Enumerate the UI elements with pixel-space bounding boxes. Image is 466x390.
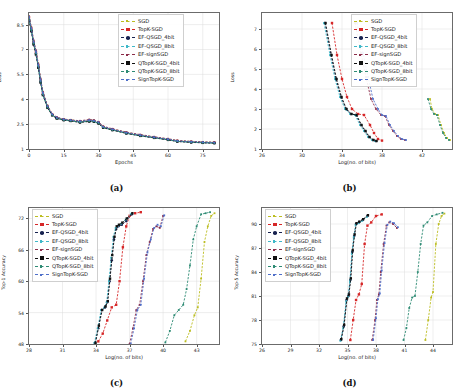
series-marker xyxy=(377,108,379,110)
panel-b: 26303438421234567 Loss Log(no. of bits) … xyxy=(233,0,466,195)
legend-item-signtopk-sgd[interactable]: SignTopK-SGD xyxy=(268,271,327,279)
series-marker xyxy=(111,254,113,256)
legend-item-qtopk-sgd-4bit[interactable]: QTopK-SGD_4bit xyxy=(121,59,180,67)
legend-item-sgd[interactable]: SGD xyxy=(268,212,327,220)
legend-swatch-icon xyxy=(354,26,368,33)
y-tick-label: 72 xyxy=(4,216,24,221)
legend-item-ef-qsgd-4bit[interactable]: EF-QSGD_4bit xyxy=(268,229,327,237)
legend-swatch-icon xyxy=(35,255,49,262)
legend-label: EF-signSGD xyxy=(285,247,315,252)
legend-label: QTopK-SGD_4bit xyxy=(285,256,327,261)
y-tickmark xyxy=(259,129,261,130)
series-marker xyxy=(432,291,434,293)
y-tickmark xyxy=(259,272,261,273)
legend-item-ef-signsgd[interactable]: EF-signSGD xyxy=(354,51,413,59)
legend-item-ef-qsgd-4bit[interactable]: EF-QSGD_4bit xyxy=(35,229,94,237)
x-tick-label: 41 xyxy=(402,348,408,353)
x-tick-label: 75 xyxy=(200,153,206,158)
series-line xyxy=(165,212,210,342)
legend-item-ef-signsgd[interactable]: EF-signSGD xyxy=(121,51,180,59)
legend-item-ef-qsgd-8bit[interactable]: EF-QSGD_8bit xyxy=(268,237,327,245)
series-marker xyxy=(379,293,381,295)
y-tickmark xyxy=(259,29,261,30)
series-marker xyxy=(375,108,377,110)
legend-item-qtopk-sgd-8bit[interactable]: QTopK-SGD_8bit xyxy=(268,262,327,270)
legend-item-topk-sgd[interactable]: TopK-SGD xyxy=(354,25,413,33)
legend-item-qtopk-sgd-4bit[interactable]: QTopK-SGD_4bit xyxy=(354,59,413,67)
series-marker xyxy=(425,339,427,341)
legend-item-ef-qsgd-8bit[interactable]: EF-QSGD_8bit xyxy=(121,42,180,50)
legend-item-qtopk-sgd-8bit[interactable]: QTopK-SGD_8bit xyxy=(35,262,94,270)
series-marker xyxy=(189,265,191,267)
legend-item-sgd[interactable]: SGD xyxy=(35,212,94,220)
legend-item-sgd[interactable]: SGD xyxy=(121,17,180,25)
legend-item-ef-qsgd-4bit[interactable]: EF-QSGD_4bit xyxy=(121,34,180,42)
series-marker xyxy=(401,138,403,140)
series-marker xyxy=(202,141,204,143)
legend-swatch-icon xyxy=(121,26,135,33)
y-tickmark xyxy=(26,25,28,26)
legend-item-ef-signsgd[interactable]: EF-signSGD xyxy=(35,246,94,254)
series-marker xyxy=(426,222,428,224)
legend-item-qtopk-sgd-8bit[interactable]: QTopK-SGD_8bit xyxy=(354,67,413,75)
series-marker xyxy=(405,139,407,141)
legend-swatch-icon xyxy=(121,60,135,67)
legend-item-ef-signsgd[interactable]: EF-signSGD xyxy=(268,246,327,254)
series-marker xyxy=(147,252,149,254)
series-marker xyxy=(140,211,142,213)
series-marker xyxy=(133,327,135,329)
series-marker xyxy=(335,78,337,80)
legend-item-signtopk-sgd[interactable]: SignTopK-SGD xyxy=(35,271,94,279)
legend-item-topk-sgd[interactable]: TopK-SGD xyxy=(268,220,327,228)
y-tickmark xyxy=(26,74,28,75)
series-marker xyxy=(340,96,342,98)
legend-item-ef-qsgd-8bit[interactable]: EF-QSGD_8bit xyxy=(354,42,413,50)
series-marker xyxy=(106,319,108,321)
y-tickmark xyxy=(259,149,261,150)
y-tickmark xyxy=(26,149,28,150)
legend-item-ef-qsgd-8bit[interactable]: EF-QSGD_8bit xyxy=(35,237,94,245)
series-marker xyxy=(350,113,352,115)
legend-item-qtopk-sgd-8bit[interactable]: QTopK-SGD_8bit xyxy=(121,67,180,75)
series-marker xyxy=(204,241,206,243)
series-marker xyxy=(63,118,65,120)
series-marker xyxy=(381,213,383,215)
legend-item-ef-qsgd-4bit[interactable]: EF-QSGD_4bit xyxy=(354,34,413,42)
series-marker xyxy=(370,98,372,100)
legend-swatch-icon xyxy=(354,60,368,67)
legend-item-signtopk-sgd[interactable]: SignTopK-SGD xyxy=(354,76,413,84)
legend-item-qtopk-sgd-4bit[interactable]: QTopK-SGD_4bit xyxy=(35,254,94,262)
series-marker xyxy=(200,278,202,280)
y-tickmark xyxy=(26,313,28,314)
series-marker xyxy=(381,270,383,272)
series-marker xyxy=(207,225,209,227)
legend-item-signtopk-sgd[interactable]: SignTopK-SGD xyxy=(121,76,180,84)
series-marker xyxy=(345,108,347,110)
legend-item-topk-sgd[interactable]: TopK-SGD xyxy=(121,25,180,33)
series-marker xyxy=(30,27,32,29)
legend-item-topk-sgd[interactable]: TopK-SGD xyxy=(35,220,94,228)
series-marker xyxy=(438,223,440,225)
series-marker xyxy=(381,139,383,141)
y-tickmark xyxy=(259,69,261,70)
legend-label: EF-QSGD_4bit xyxy=(285,230,321,235)
y-tickmark xyxy=(259,248,261,249)
series-marker xyxy=(353,233,355,235)
legend-swatch-icon xyxy=(268,229,282,236)
series-marker xyxy=(368,136,370,138)
series-line xyxy=(94,214,131,343)
legend-label: SignTopK-SGD xyxy=(138,77,174,82)
legend-swatch-icon xyxy=(35,238,49,245)
legend-item-qtopk-sgd-4bit[interactable]: QTopK-SGD_4bit xyxy=(268,254,327,262)
series-marker xyxy=(33,41,35,43)
series-marker xyxy=(372,98,374,100)
series-marker xyxy=(429,98,431,100)
legend-item-sgd[interactable]: SGD xyxy=(354,17,413,25)
series-marker xyxy=(431,215,433,217)
y-axis-label-b: Loss xyxy=(230,72,235,82)
series-marker xyxy=(436,214,438,216)
y-tick-label: 84 xyxy=(237,270,257,275)
series-marker xyxy=(29,16,30,18)
legend-label: EF-QSGD_4bit xyxy=(52,230,88,235)
x-tick-label: 38 xyxy=(373,348,379,353)
